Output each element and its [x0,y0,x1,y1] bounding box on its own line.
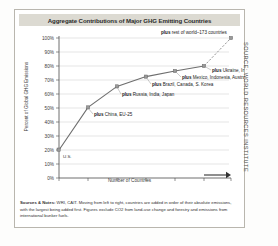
chart-svg: 100% 90% 80% 70% 60% 50% 40% 30% 20% 10%… [15,26,244,181]
x-axis-title: Number of Countries [15,178,244,183]
y-tick-label: 90% [45,50,54,55]
annotation-prefix: plus [161,30,171,35]
annotation-brazil-canada-skorea: plus Brazil, Canada, S. Korea [152,82,214,87]
sources-and-notes: Sources & Notes: WRI, CAIT. Moving from … [20,200,239,220]
data-point [229,36,232,39]
y-tick-label: 30% [45,134,54,139]
annotation-prefix: plus [182,75,192,80]
data-point [144,75,147,78]
annotation-prefix: plus [94,112,104,117]
y-tick-label: 40% [45,120,54,125]
annotation-text: Mexico, Indonesia, Australia [191,75,244,80]
source-credit: SOURCE: WORLD RESOURCES INSTITUTE [243,42,249,192]
data-point [57,148,60,151]
y-tick-label: 50% [45,106,54,111]
annotation-prefix: plus [152,82,162,87]
annotation-text: rest of world–173 countries [170,30,227,35]
y-tick-labels: 100% 90% 80% 70% 60% 50% 40% 30% 20% 10%… [42,36,54,181]
y-tick-label: 10% [45,162,54,167]
annotation-rest-of-world: plus rest of world–173 countries [161,30,228,35]
y-tick-label: 20% [45,148,54,153]
chart-figure: Aggregate Contributions of Major GHG Emi… [14,9,245,228]
annotation-prefix: plus [122,92,132,97]
annotation-russia-india-japan: plus Russia, India, Japan [122,92,175,97]
chart-title-bar: Aggregate Contributions of Major GHG Emi… [19,14,240,26]
annotation-text: China, EU-25 [103,112,132,117]
annotation-china-eu25: plus China, EU-25 [94,112,133,117]
notes-label: Sources & Notes: [20,200,55,205]
annotation-mexico-indonesia-australia: plus Mexico, Indonesia, Australia [182,75,244,80]
data-point [115,85,118,88]
annotation-text: Ukraine, Iran, S. Africa [221,68,244,73]
gridlines [59,38,229,164]
data-point [86,106,89,109]
annotation-leaders [88,66,211,114]
plot-area: Percent of Global GHG Emissions [15,26,244,194]
annotation-text: Russia, India, Japan [131,92,174,97]
annotation-us: U.S. [63,154,72,159]
y-tick-label: 80% [45,64,54,69]
annotation-ukraine-iran-safrica: plus Ukraine, Iran, S. Africa [212,68,244,73]
y-tick-label: 70% [45,78,54,83]
y-tick-marks [56,38,59,178]
page-title: Aggregate Contributions of Major GHG Emi… [48,17,211,24]
figure-page: Aggregate Contributions of Major GHG Emi… [0,0,278,246]
annotation-prefix: plus [212,68,222,73]
annotation-text: Brazil, Canada, S. Korea [161,82,213,87]
y-tick-label: 60% [45,92,54,97]
y-tick-label: 100% [42,36,54,41]
